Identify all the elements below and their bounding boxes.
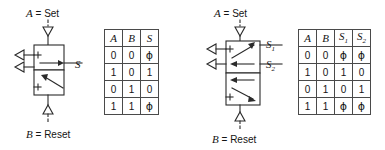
- left-cell-r0c2: ϕ: [141, 47, 159, 64]
- left-cell-r1c2: 1: [141, 64, 159, 81]
- left-cell-r1c1: 0: [123, 64, 141, 81]
- left-cell-r3c0: 1: [105, 98, 123, 115]
- right-cell-r2c3: 1: [353, 81, 371, 98]
- left-cell-r3c2: ϕ: [141, 98, 159, 115]
- left-valve-box-lower: [34, 70, 64, 95]
- right-header-s2: S2: [353, 30, 371, 47]
- left-cell-r2c2: 0: [141, 81, 159, 98]
- right-side-pilot-triangle-lower-icon: [207, 59, 216, 69]
- right-header-a: A: [299, 30, 317, 47]
- right-cell-r0c2: ϕ: [335, 47, 353, 64]
- right-cell-r0c3: ϕ: [353, 47, 371, 64]
- right-side-pilot-triangle-upper-icon: [207, 44, 216, 54]
- table-row: 0 1 0: [105, 81, 159, 98]
- right-cell-r0c1: 0: [317, 47, 335, 64]
- right-cell-r2c1: 1: [317, 81, 335, 98]
- left-side-pilot-triangle-upper-icon: [15, 50, 24, 60]
- right-cell-r2c0: 0: [299, 81, 317, 98]
- right-valve-box-upper: [226, 41, 260, 73]
- left-cell-r2c1: 1: [123, 81, 141, 98]
- left-side-pilot-triangle-lower-icon: [15, 62, 24, 72]
- table-row: 1 1 ϕ ϕ: [299, 98, 371, 115]
- right-bottom-pilot-triangle-icon: [235, 112, 245, 121]
- left-header-a: A: [105, 30, 123, 47]
- table-row: 1 0 1: [105, 64, 159, 81]
- left-cell-r0c0: 0: [105, 47, 123, 64]
- table-row: 1 1 ϕ: [105, 98, 159, 115]
- left-top-pilot-triangle-icon: [43, 27, 53, 36]
- right-cell-r3c0: 1: [299, 98, 317, 115]
- left-header-s: S: [141, 30, 159, 47]
- left-cell-r0c1: 0: [123, 47, 141, 64]
- table-row: 1 0 1 0: [299, 64, 371, 81]
- right-top-pilot-triangle-icon: [235, 27, 245, 36]
- right-cell-r1c3: 0: [353, 64, 371, 81]
- left-cell-r3c1: 1: [123, 98, 141, 115]
- right-cell-r3c3: ϕ: [353, 98, 371, 115]
- right-cell-r3c1: 1: [317, 98, 335, 115]
- left-cell-r2c0: 0: [105, 81, 123, 98]
- right-cell-r1c1: 0: [317, 64, 335, 81]
- left-bottom-pilot-triangle-icon: [43, 105, 53, 114]
- left-truth-table: A B S 0 0 ϕ 1 0 1 0 1 0 1 1 ϕ: [104, 29, 159, 115]
- fluidic-memory-valve-figure: A = Set B = Reset S: [0, 0, 385, 150]
- left-header-b: B: [123, 30, 141, 47]
- right-cell-r1c0: 1: [299, 64, 317, 81]
- right-truth-table: A B S1 S2 0 0 ϕ ϕ 1 0 1 0 0 1 0 1: [298, 29, 371, 115]
- right-cell-r1c2: 1: [335, 64, 353, 81]
- right-header-s1-sub: 1: [345, 38, 349, 46]
- right-cell-r0c0: 0: [299, 47, 317, 64]
- table-row: 0 0 ϕ: [105, 47, 159, 64]
- right-header-s2-sub: 2: [363, 38, 367, 46]
- table-row: 0 0 ϕ ϕ: [299, 47, 371, 64]
- right-header-s1: S1: [335, 30, 353, 47]
- table-header-row: A B S: [105, 30, 159, 47]
- left-valve-symbol: [0, 0, 120, 150]
- right-cell-r2c2: 0: [335, 81, 353, 98]
- left-cell-r1c0: 1: [105, 64, 123, 81]
- table-row: 0 1 0 1: [299, 81, 371, 98]
- right-cell-r3c2: ϕ: [335, 98, 353, 115]
- right-header-b: B: [317, 30, 335, 47]
- table-header-row: A B S1 S2: [299, 30, 371, 47]
- right-valve-box-lower: [226, 73, 260, 105]
